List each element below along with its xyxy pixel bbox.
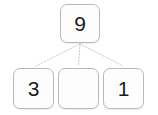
part-box-2[interactable] — [58, 68, 99, 109]
connector-line-left — [36, 44, 80, 66]
part-value-3: 1 — [118, 78, 130, 99]
connector-line-right — [80, 44, 123, 66]
whole-box[interactable]: 9 — [60, 4, 100, 43]
whole-value: 9 — [74, 13, 86, 34]
number-bond-diagram: 9 3 1 — [0, 0, 158, 115]
part-box-3[interactable]: 1 — [103, 68, 144, 109]
connector-line-middle — [79, 44, 81, 66]
part-box-1[interactable]: 3 — [13, 68, 54, 109]
part-value-1: 3 — [28, 78, 40, 99]
